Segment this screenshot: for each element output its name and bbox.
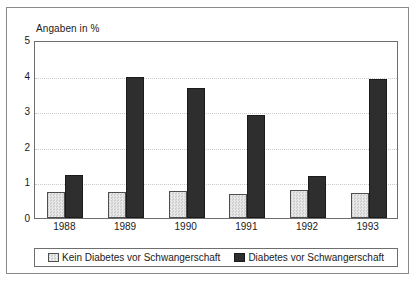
x-tick-label: 1992 [296,221,318,232]
bar-1988-series2 [65,175,83,218]
y-tick-label: 5 [4,36,30,46]
legend-item-1: Kein Diabetes vor Schwangerschaft [48,252,220,263]
x-tick-label: 1993 [357,221,379,232]
bar-1988-series1 [47,192,65,218]
bar-1993-series2 [369,79,387,218]
legend-swatch-light [48,253,59,262]
y-tick-label: 1 [4,178,30,188]
chart-page: Angaben in % 012345 19881989199019911992… [0,0,420,288]
y-tick-label: 2 [4,143,30,153]
x-tick-label: 1991 [235,221,257,232]
y-tick-label: 4 [4,72,30,82]
y-tick-label: 0 [4,214,30,224]
legend-label: Kein Diabetes vor Schwangerschaft [62,252,220,263]
x-tick-label: 1988 [53,221,75,232]
bar-1989-series1 [108,192,126,218]
bar-1990-series2 [187,88,205,218]
legend-label: Diabetes vor Schwangerschaft [248,252,384,263]
bars-layer [35,42,397,218]
bar-1991-series2 [247,115,265,218]
bar-1992-series1 [290,190,308,218]
bar-1992-series2 [308,176,326,218]
plot-area [34,41,398,219]
bar-1989-series2 [126,77,144,218]
chart-title: Angaben in % [36,23,99,34]
bar-1990-series1 [169,191,187,218]
x-tick-label: 1989 [114,221,136,232]
x-tick-label: 1990 [175,221,197,232]
legend-swatch-dark [234,253,245,262]
chart-legend: Kein Diabetes vor SchwangerschaftDiabete… [34,248,398,267]
y-tick-label: 3 [4,107,30,117]
bar-1991-series1 [229,194,247,218]
y-axis: 012345 [0,41,30,219]
bar-1993-series1 [351,193,369,218]
legend-item-2: Diabetes vor Schwangerschaft [234,252,384,263]
x-axis: 198819891990199119921993 [34,221,398,237]
